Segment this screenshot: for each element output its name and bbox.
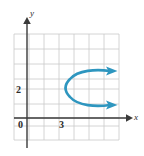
parabola-curve xyxy=(66,70,111,106)
coordinate-plot: y x 0 3 2 xyxy=(0,0,144,156)
y-axis xyxy=(23,17,31,148)
origin-label: 0 xyxy=(18,119,23,130)
y-tick-label-2: 2 xyxy=(16,84,21,95)
y-axis-label: y xyxy=(29,8,34,18)
x-axis xyxy=(14,114,133,122)
x-axis-label: x xyxy=(133,112,138,122)
parabola-figure: y x 0 3 2 xyxy=(0,0,144,156)
x-tick-label-3: 3 xyxy=(59,119,64,130)
